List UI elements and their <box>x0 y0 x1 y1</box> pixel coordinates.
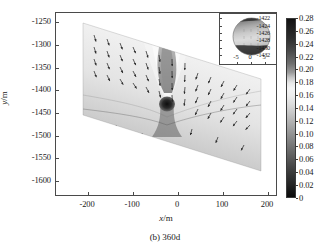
colorbar-label: 0.06 <box>299 154 313 164</box>
inset-y-label: -1430 <box>257 44 270 51</box>
colorbar-label: 0 <box>299 193 303 203</box>
inset-y-label: -1428 <box>257 36 270 43</box>
y-tick-mark <box>56 158 59 159</box>
y-tick-mark <box>56 90 59 91</box>
x-tick-label: 0 <box>175 199 179 209</box>
inset-x-label: -5 <box>233 53 238 60</box>
x-tick-mark <box>268 192 269 195</box>
colorbar-tick <box>296 146 298 147</box>
x-tick-label: 200 <box>261 199 273 209</box>
colorbar-label: 0.08 <box>299 141 313 151</box>
x-tick-label: -200 <box>79 199 94 209</box>
y-axis-title: y/m <box>0 91 9 105</box>
x-tick-mark <box>178 192 179 195</box>
colorbar-label: 0.22 <box>299 52 313 62</box>
inset-x-tick <box>251 62 252 64</box>
inset-y-label: -1424 <box>257 22 270 29</box>
colorbar-tick <box>296 44 298 45</box>
colorbar-tick <box>296 69 298 70</box>
y-tick-mark <box>56 113 59 114</box>
x-tick-mark <box>133 192 134 195</box>
x-axis-title: x/m <box>159 213 173 223</box>
colorbar-label: 0.20 <box>299 64 313 74</box>
colorbar-label: 0.28 <box>299 13 313 23</box>
colorbar-label: 0.10 <box>299 129 313 139</box>
inset-x-tick <box>237 62 238 64</box>
y-tick-label: -1300 <box>32 39 51 49</box>
y-axis-title-unit: /m <box>0 91 9 101</box>
wellbore-blob <box>159 97 175 112</box>
y-tick-mark <box>56 45 59 46</box>
colorbar <box>286 18 296 198</box>
y-tick-mark <box>56 136 59 137</box>
figure-caption: (b) 360d <box>150 232 181 242</box>
colorbar-gradient <box>286 18 296 198</box>
inset-y-tick <box>220 33 222 34</box>
colorbar-tick <box>296 134 298 135</box>
y-axis-title-symbol: y <box>0 101 9 105</box>
inset-y-label: -1426 <box>257 29 270 36</box>
y-tick-label: -1350 <box>32 62 51 72</box>
y-tick-label: -1400 <box>32 84 51 94</box>
colorbar-tick <box>296 57 298 58</box>
inset-y-tick <box>220 55 222 56</box>
inset-x-tick <box>265 62 266 64</box>
colorbar-label: 0.04 <box>299 167 313 177</box>
inset-y-tick <box>220 18 222 19</box>
y-tick-mark <box>56 22 59 23</box>
colorbar-tick <box>296 185 298 186</box>
colorbar-tick <box>296 108 298 109</box>
x-tick-mark <box>223 192 224 195</box>
figure-panel: -1250 -1300 -1350 -1400 -1450 -1500 -155… <box>0 0 330 252</box>
x-tick-mark <box>88 192 89 195</box>
colorbar-label: 0.02 <box>299 180 313 190</box>
colorbar-tick <box>296 198 298 199</box>
colorbar-label: 0.16 <box>299 90 313 100</box>
colorbar-tick <box>296 159 298 160</box>
x-tick-label: -100 <box>124 199 139 209</box>
inset-y-tick <box>220 48 222 49</box>
y-tick-label: -1250 <box>32 16 51 26</box>
y-tick-label: -1500 <box>32 130 51 140</box>
y-tick-mark <box>56 181 59 182</box>
inset-y-tick <box>220 26 222 27</box>
inset-y-tick <box>220 40 222 41</box>
x-axis-title-unit: /m <box>163 213 173 223</box>
y-tick-label: -1550 <box>32 152 51 162</box>
inset-x-label: 5 <box>262 53 265 60</box>
colorbar-label: 0.14 <box>299 103 313 113</box>
colorbar-tick <box>296 172 298 173</box>
colorbar-tick <box>296 121 298 122</box>
colorbar-label: 0.24 <box>299 39 313 49</box>
colorbar-tick <box>296 95 298 96</box>
colorbar-label: 0.18 <box>299 77 313 87</box>
colorbar-tick <box>296 82 298 83</box>
colorbar-label: 0.26 <box>299 26 313 36</box>
colorbar-label: 0.12 <box>299 116 313 126</box>
inset-y-label: -1422 <box>257 14 270 21</box>
x-tick-label: 100 <box>216 199 228 209</box>
colorbar-tick <box>296 31 298 32</box>
inset-x-label: 0 <box>248 53 251 60</box>
colorbar-tick <box>296 18 298 19</box>
y-tick-label: -1600 <box>32 175 51 185</box>
y-tick-mark <box>56 68 59 69</box>
y-tick-label: -1450 <box>32 107 51 117</box>
